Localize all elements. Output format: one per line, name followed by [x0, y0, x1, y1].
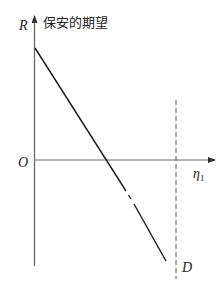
x-axis-label-main: η	[193, 166, 200, 181]
diagram-title: 保安的期望	[43, 15, 108, 30]
expectation-line-lower	[134, 204, 166, 261]
expectation-line-dash	[129, 195, 132, 199]
origin-label: O	[18, 155, 28, 170]
y-axis-label: R	[18, 18, 28, 33]
dashed-line-label: D	[181, 260, 192, 275]
x-axis-label-subscript: 1	[200, 173, 205, 183]
security-expectation-diagram: R 保安的期望 O η1 D	[0, 0, 223, 295]
expectation-line-upper	[35, 48, 126, 191]
x-axis-label: η1	[193, 166, 204, 183]
